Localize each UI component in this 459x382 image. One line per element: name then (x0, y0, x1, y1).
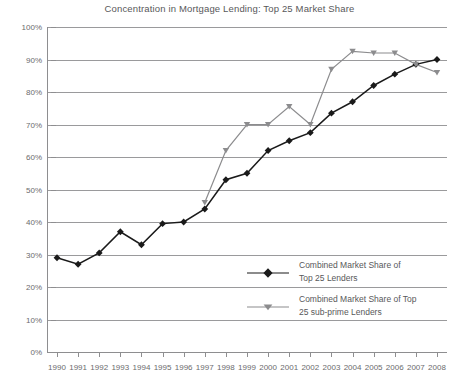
chart-page: Concentration in Mortgage Lending: Top 2… (0, 0, 459, 382)
x-axis-tick-mark (437, 353, 438, 357)
x-axis-tick-mark (247, 353, 248, 357)
x-axis-tick-mark (163, 353, 164, 357)
data-point-marker (223, 148, 229, 153)
x-axis-tick-mark (120, 353, 121, 357)
x-axis-tick-mark (78, 353, 79, 357)
x-axis-tick-mark (184, 353, 185, 357)
data-point-marker (75, 261, 82, 268)
data-point-marker (434, 70, 440, 75)
legend-label-line1: Combined Market Share of Top (299, 293, 447, 306)
x-axis-tick-mark (268, 353, 269, 357)
x-axis-tick-mark (226, 353, 227, 357)
data-point-marker (328, 67, 334, 72)
data-point-marker (180, 219, 187, 226)
data-point-marker (307, 122, 313, 127)
chart-legend: Combined Market Share of Top 25 Lenders … (243, 257, 447, 325)
data-point-marker (434, 56, 441, 63)
data-point-marker (286, 137, 293, 144)
legend-label-line2: 25 sub-prime Lenders (299, 306, 447, 319)
x-axis-tick-mark (205, 353, 206, 357)
x-axis-tick-mark (416, 353, 417, 357)
data-point-marker (54, 254, 61, 261)
x-axis-tick-mark (331, 353, 332, 357)
legend-item-top25-lenders: Combined Market Share of Top 25 Lenders (243, 257, 447, 291)
legend-label-top25-lenders: Combined Market Share of Top 25 Lenders (299, 259, 447, 285)
x-axis-tick-mark (374, 353, 375, 357)
x-axis-tick-mark (353, 353, 354, 357)
legend-marker-diamond-icon (245, 266, 291, 280)
legend-label-line2: Top 25 Lenders (299, 272, 447, 285)
x-axis-tick-mark (310, 353, 311, 357)
legend-item-top25-subprime-lenders: Combined Market Share of Top 25 sub-prim… (243, 291, 447, 325)
x-axis-tick-mark (141, 353, 142, 357)
x-axis-tick-mark (395, 353, 396, 357)
data-point-marker (391, 71, 398, 78)
series-line (205, 51, 437, 202)
x-axis-tick-mark (57, 353, 58, 357)
data-point-marker (202, 200, 208, 205)
legend-label-top25-subprime-lenders: Combined Market Share of Top 25 sub-prim… (299, 293, 447, 319)
series-line (57, 60, 437, 265)
x-axis-tick-label: 2008 (420, 363, 454, 372)
x-axis-tick-mark (99, 353, 100, 357)
x-axis-tick-mark (289, 353, 290, 357)
legend-label-line1: Combined Market Share of (299, 259, 447, 272)
legend-marker-triangle-icon (245, 300, 291, 314)
